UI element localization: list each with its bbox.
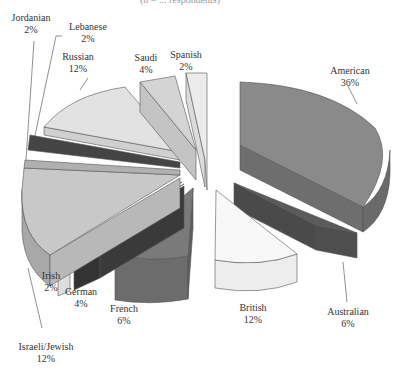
label-british: British12% xyxy=(239,302,266,326)
leader-russian xyxy=(80,78,88,90)
label-irish: Irish2% xyxy=(42,270,60,294)
label-australian: Australian6% xyxy=(327,306,369,330)
label-french: French6% xyxy=(110,303,138,327)
label-american: American36% xyxy=(330,65,369,89)
label-saudi: Saudi4% xyxy=(135,52,158,76)
label-german: German4% xyxy=(65,286,97,310)
label-spanish: Spanish2% xyxy=(170,49,202,73)
label-lebanese: Lebanese2% xyxy=(69,21,107,45)
label-jordanian: Jordanian2% xyxy=(12,12,51,36)
leader-australian xyxy=(343,262,347,302)
label-israeli: Israeli/Jewish12% xyxy=(19,341,74,365)
label-russian: Russian12% xyxy=(62,51,94,75)
